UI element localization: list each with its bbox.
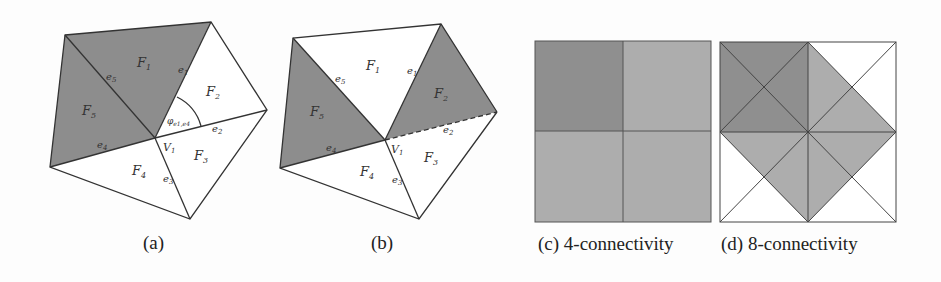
caption-c: (c) 4-connectivity	[538, 233, 674, 255]
panel-c	[535, 41, 711, 222]
panel-a: F1 F2 F3 F4 F5 e1 e2 e3 e4 e5 V1 φe1,e4	[50, 22, 267, 219]
caption-b: (b)	[371, 232, 393, 254]
caption-a: (a)	[143, 232, 164, 254]
panel-b: F1 F2 F3 F4 F5 e1 e2 e3 e4 e5 V1	[280, 24, 497, 219]
caption-d: (d) 8-connectivity	[721, 233, 858, 255]
panel-d	[720, 42, 896, 222]
